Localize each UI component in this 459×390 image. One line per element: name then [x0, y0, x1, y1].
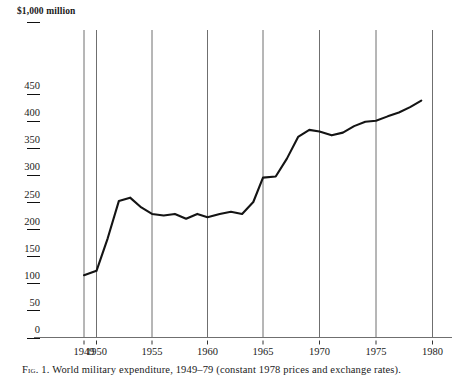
y-tick-label-350: 350 — [0, 134, 40, 145]
y-tick-dash-150 — [27, 256, 40, 257]
gridline-group — [84, 30, 433, 338]
x-tick-label-1975: 1975 — [354, 346, 398, 357]
y-tick-label-450: 450 — [0, 80, 40, 91]
y-axis-unit-title: $1,000 million — [17, 6, 75, 16]
figure-number-label: Fig. 1. — [22, 364, 49, 375]
x-tick-label-1950: 1950 — [75, 346, 119, 357]
y-tick-dash-350 — [27, 148, 40, 149]
y-tick-label-200: 200 — [0, 216, 40, 227]
y-tick-dash-50 — [27, 310, 40, 311]
y-tick-label-0: 0 — [0, 324, 40, 335]
y-tick-dash-450 — [27, 94, 40, 95]
y-tick-dash-200 — [27, 229, 40, 230]
y-tick-dash-0 — [27, 338, 40, 339]
x-tick-label-1970: 1970 — [298, 346, 342, 357]
y-tick-label-50: 50 — [0, 297, 40, 308]
y-tick-label-150: 150 — [0, 243, 40, 254]
x-tick-label-1960: 1960 — [186, 346, 230, 357]
y-tick-label-300: 300 — [0, 161, 40, 172]
y-axis-title-dash — [27, 22, 40, 23]
y-tick-dash-400 — [27, 121, 40, 122]
figure-caption: Fig. 1. World military expenditure, 1949… — [22, 364, 452, 375]
x-tick-label-1955: 1955 — [130, 346, 174, 357]
data-series-line — [84, 101, 421, 276]
x-tick-mark-group — [84, 341, 433, 345]
x-tick-label-1980: 1980 — [411, 346, 455, 357]
y-tick-dash-250 — [27, 202, 40, 203]
figure-caption-text: World military expenditure, 1949–79 (con… — [52, 364, 401, 375]
y-tick-dash-300 — [27, 175, 40, 176]
y-tick-label-100: 100 — [0, 270, 40, 281]
x-tick-label-1965: 1965 — [241, 346, 285, 357]
figure-world-military-expenditure: $1,000 million 0501001502002503003504004… — [0, 0, 459, 390]
chart-canvas — [0, 0, 459, 390]
y-tick-dash-100 — [27, 283, 40, 284]
y-tick-label-250: 250 — [0, 189, 40, 200]
y-tick-label-400: 400 — [0, 107, 40, 118]
